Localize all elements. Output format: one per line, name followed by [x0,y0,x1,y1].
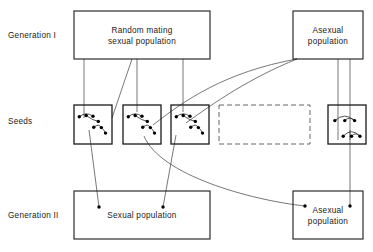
asexual-population-gen1-outline [293,11,363,59]
seed-box-2-seed-dot-7 [153,131,156,134]
end-dot-gen2-sexual-b [161,205,164,208]
seed-box-3-seed-dot-6 [197,126,200,129]
random-mating-sexual-population-label-line-1: Random mating [111,26,172,35]
sexual-population-gen2-label-line-1: Sexual population [107,211,177,220]
seed-box-1-seed-dot-4 [97,120,100,123]
sexual-population-gen2: Sexual population [74,191,210,239]
seed-box-2-seed-dot-1 [127,115,130,118]
diagram-root: Random matingsexual populationAsexualpop… [0,0,373,252]
seed-box-1-seed-dot-6 [100,126,103,129]
seed-box-3-seed-dot-4 [194,120,197,123]
seed2-to-gen2-asexual-curve [144,136,305,206]
random-mating-sexual-population-outline [74,11,210,59]
seed-box-layer [74,105,366,144]
seed-box-4 [328,105,366,144]
gen1-sexual-to-seed2-diagonal [112,59,132,118]
seed-box-4-seed-dot-1 [333,119,336,122]
seed-box-3-seed-dot-1 [175,115,178,118]
seed-box-4-outline [328,105,366,144]
end-dot-gen2-sexual-a [97,205,100,208]
connector-layer [84,59,350,207]
seed-box-4-seed-dot-5 [350,135,353,138]
seed-box-1-seed-dot-1 [78,115,81,118]
gen1-asexual-to-seed2-curve [153,59,297,125]
seed-box-4-seed-dot-6 [358,135,361,138]
asexual-population-gen2-label-line-2: population [308,217,348,226]
seed-box-1-seed-dot-3 [91,115,94,118]
random-mating-sexual-population: Random matingsexual population [74,11,210,59]
asexual-population-gen1-label-line-2: population [308,37,348,46]
generation-flow-diagram: Random matingsexual populationAsexualpop… [0,0,373,252]
seed-box-1 [74,105,112,144]
end-dot-gen2-asexual-a [303,204,306,207]
asexual-population-gen1: Asexualpopulation [293,11,363,59]
seed-box-1-seed-dot-2 [84,114,87,117]
asexual-population-gen1-label-line-1: Asexual [313,26,344,35]
empty-seed-placeholder-outline [219,105,310,144]
row-label-generation-ii: Generation II [8,211,59,220]
seed-box-2-seed-dot-6 [149,126,152,129]
row-label-generation-i: Generation I [8,31,56,40]
row-label-seeds: Seeds [8,117,32,126]
seed1-to-gen2-sexual [89,130,99,207]
end-dot-gen2-asexual-b [348,204,351,207]
seed3-to-gen2-sexual [163,135,176,207]
asexual-population-gen2-label-line-1: Asexual [313,206,344,215]
seed-box-4-seed-dot-3 [353,119,356,122]
asexual-population-gen2: Asexualpopulation [293,191,363,239]
asexual-population-gen2-outline [293,191,363,239]
seed-box-2 [123,105,161,144]
random-mating-sexual-population-label-line-2: sexual population [108,37,176,46]
seed-box-3-seed-dot-7 [201,131,204,134]
empty-seed-placeholder [219,105,310,144]
seed-box-4-seed-dot-4 [342,135,345,138]
seed-box-2-seed-dot-3 [140,115,143,118]
seed-box-4-seed-dot-2 [343,119,346,122]
seed-box-2-seed-dot-4 [146,120,149,123]
seed-box-3-seed-dot-3 [188,115,191,118]
seed-box-2-outline [123,105,161,144]
seed-box-3-seed-dot-5 [189,126,192,129]
seed-box-2-seed-dot-2 [133,114,136,117]
seed-box-1-seed-dot-7 [104,131,107,134]
seed-box-3-seed-dot-2 [181,114,184,117]
seed-box-2-seed-dot-5 [141,126,144,129]
box-layer: Random matingsexual populationAsexualpop… [74,11,363,239]
label-layer: Generation ISeedsGeneration II [8,31,59,220]
seed-box-1-outline [74,105,112,144]
seed-box-1-seed-dot-5 [92,126,95,129]
